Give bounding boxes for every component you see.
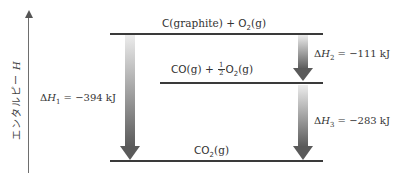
level-top-label: C(graphite) + O2(g) bbox=[162, 17, 266, 32]
level-bottom-label: CO2(g) bbox=[194, 144, 229, 159]
fraction-one-half: 12 bbox=[218, 62, 224, 77]
arrow-dH3-icon bbox=[293, 85, 313, 160]
level-middle-label: CO(g) + 12O2(g) bbox=[171, 62, 253, 78]
level-middle-line bbox=[160, 82, 323, 84]
arrow-dH1-icon bbox=[120, 35, 140, 160]
level-bottom-line bbox=[110, 160, 323, 162]
level-top-line bbox=[110, 33, 323, 35]
delta-h1-label: ΔH1 = −394 kJ bbox=[40, 92, 116, 106]
delta-h2-label: ΔH2 = −111 kJ bbox=[314, 48, 390, 62]
delta-h3-label: ΔH3 = −283 kJ bbox=[314, 115, 390, 129]
arrow-dH2-icon bbox=[293, 35, 313, 81]
